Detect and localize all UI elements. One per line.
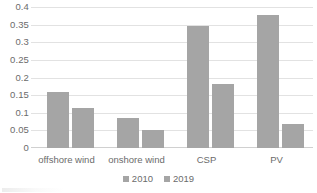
legend-label: 2010 — [132, 174, 153, 184]
bar-csp-2019[interactable] — [212, 84, 234, 148]
x-tick-label-onshore-wind: onshore wind — [101, 154, 172, 165]
bar-pv-2010[interactable] — [257, 15, 279, 148]
legend: 2010 2019 — [0, 174, 317, 184]
x-tick-label-offshore-wind: offshore wind — [31, 154, 102, 165]
y-tick-label: 0.4 — [1, 2, 29, 12]
plot-area — [31, 7, 313, 148]
bar-offshore-wind-2010[interactable] — [47, 92, 69, 148]
legend-item-2019[interactable]: 2019 — [164, 174, 194, 184]
y-tick-label: 0.25 — [1, 55, 29, 65]
legend-swatch-icon — [164, 176, 170, 182]
bar-onshore-wind-2019[interactable] — [142, 130, 164, 148]
bar-chart: 0.4 0.35 0.3 0.25 0.2 0.15 0.1 0.05 0 of… — [0, 0, 317, 193]
y-tick-label: 0.1 — [1, 108, 29, 118]
x-tick-label-pv: PV — [241, 154, 312, 165]
y-axis: 0.4 0.35 0.3 0.25 0.2 0.15 0.1 0.05 0 — [0, 0, 29, 193]
y-tick-label: 0.2 — [1, 73, 29, 83]
y-tick-label: 0.3 — [1, 37, 29, 47]
legend-label: 2019 — [173, 174, 194, 184]
y-tick-label: 0.35 — [1, 20, 29, 30]
bar-pv-2019[interactable] — [282, 124, 304, 148]
y-tick-label: 0.15 — [1, 90, 29, 100]
y-tick-label: 0.05 — [1, 125, 29, 135]
legend-item-2010[interactable]: 2010 — [123, 174, 153, 184]
legend-swatch-icon — [123, 176, 129, 182]
page-artifact — [2, 188, 64, 192]
bar-csp-2010[interactable] — [187, 26, 209, 148]
bar-offshore-wind-2019[interactable] — [72, 108, 94, 149]
gridline-0.4 — [31, 7, 313, 8]
x-tick-label-csp: CSP — [171, 154, 242, 165]
y-tick-label: 0 — [1, 143, 29, 153]
bar-onshore-wind-2010[interactable] — [117, 118, 139, 148]
